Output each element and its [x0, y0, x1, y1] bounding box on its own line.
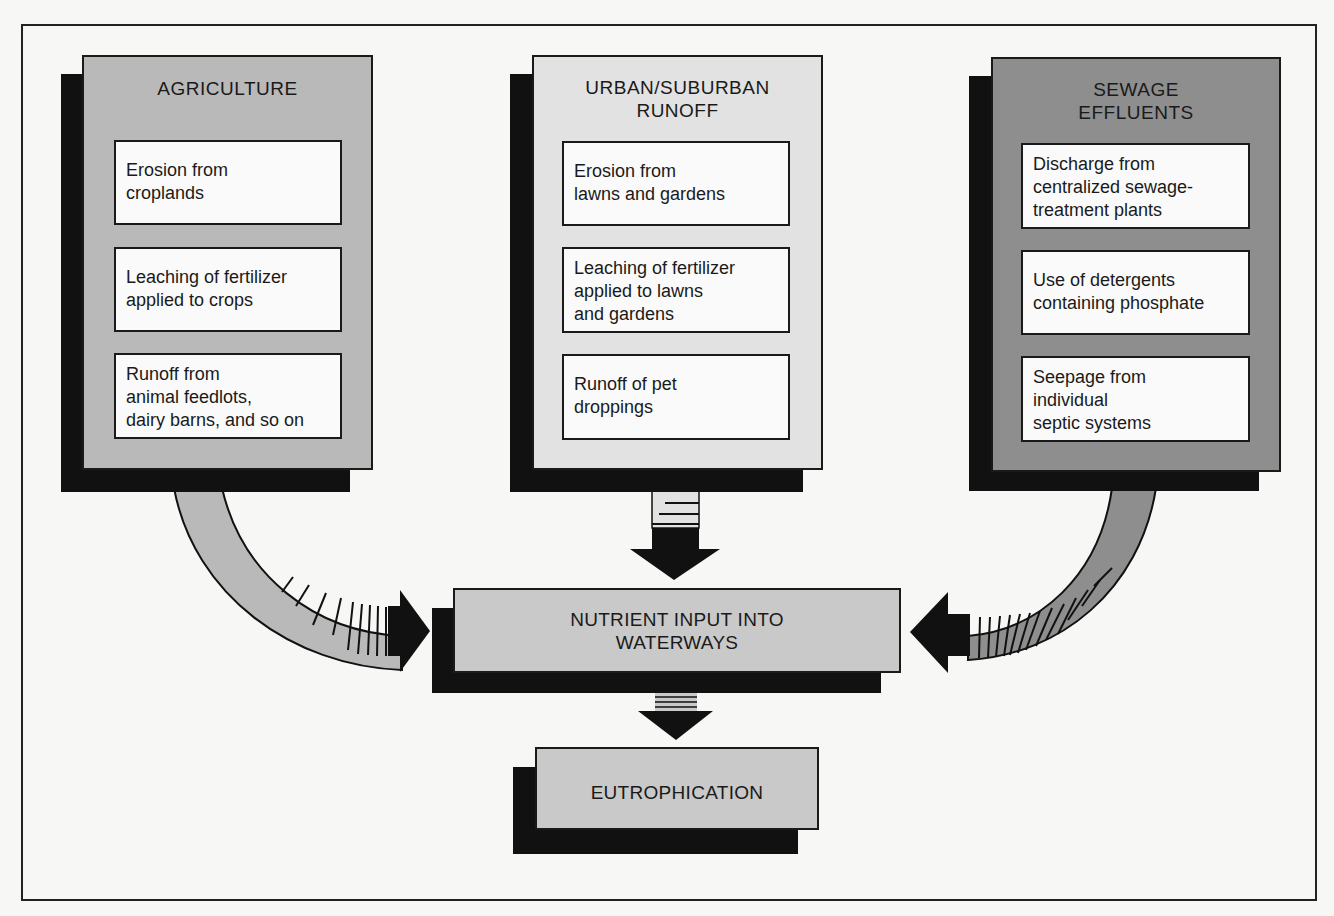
agriculture-title: AGRICULTURE [84, 77, 371, 100]
urban-item-pet: Runoff of pet droppings [562, 354, 790, 440]
down-arrow-nutrient-icon [638, 692, 713, 740]
sewage-item-discharge: Discharge from centralized sewage- treat… [1021, 143, 1250, 229]
sewage-panel: SEWAGE EFFLUENTS Discharge from centrali… [991, 57, 1281, 472]
agriculture-item-feedlots: Runoff from animal feedlots, dairy barns… [114, 353, 342, 439]
down-arrow-urban-icon [630, 490, 720, 580]
eutrophication-box: EUTROPHICATION [535, 747, 819, 830]
urban-title: URBAN/SUBURBAN RUNOFF [534, 76, 821, 122]
agriculture-panel: AGRICULTURE Erosion from croplands Leach… [82, 55, 373, 470]
nutrient-input-box: NUTRIENT INPUT INTO WATERWAYS [453, 588, 901, 673]
urban-item-fertilizer: Leaching of fertilizer applied to lawns … [562, 247, 790, 333]
agriculture-item-fertilizer: Leaching of fertilizer applied to crops [114, 247, 342, 332]
urban-item-erosion: Erosion from lawns and gardens [562, 141, 790, 226]
curved-arrow-sewage-icon [910, 488, 1156, 673]
sewage-title: SEWAGE EFFLUENTS [993, 78, 1279, 124]
sewage-item-detergents: Use of detergents containing phosphate [1021, 250, 1250, 335]
nutrient-input-label: NUTRIENT INPUT INTO WATERWAYS [455, 608, 899, 654]
agriculture-item-erosion: Erosion from croplands [114, 140, 342, 225]
sewage-item-septic: Seepage from individual septic systems [1021, 356, 1250, 442]
urban-panel: URBAN/SUBURBAN RUNOFF Erosion from lawns… [532, 55, 823, 470]
curved-arrow-agriculture-icon [174, 488, 430, 672]
eutrophication-label: EUTROPHICATION [537, 781, 817, 804]
